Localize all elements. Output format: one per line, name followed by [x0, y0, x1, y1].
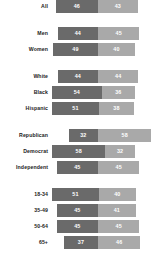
bar-row: 50-644545	[0, 220, 162, 233]
bar-value-left: 45	[74, 208, 80, 213]
bar-segment-right: 44	[98, 70, 138, 83]
bar-track: 3746	[52, 236, 162, 249]
bar-row: Women4940	[0, 43, 162, 56]
bar-segment-left: 45	[57, 204, 98, 217]
bar-group-gender: Men4445Women4940	[0, 27, 162, 56]
bar-value-right: 45	[116, 31, 122, 36]
bar-segment-left: 51	[52, 188, 99, 201]
category-label: All	[0, 4, 52, 9]
bar-value-right: 32	[117, 149, 123, 154]
stacked-bar: 4445	[58, 27, 140, 40]
bar-track: 5138	[52, 102, 162, 115]
stacked-bar: 4940	[53, 43, 135, 56]
bar-row: 35-494541	[0, 204, 162, 217]
category-label: Hispanic	[0, 106, 52, 111]
group-spacer	[0, 118, 162, 129]
bar-row: Republican3258	[0, 129, 162, 142]
bar-value-right: 45	[116, 224, 122, 229]
group-spacer	[0, 16, 162, 27]
bar-segment-right: 32	[105, 145, 134, 158]
bar-segment-left: 51	[52, 102, 99, 115]
bar-track: 4444	[52, 70, 162, 83]
bar-track: 4445	[52, 27, 162, 40]
bar-value-left: 51	[72, 106, 78, 111]
stacked-bar: 5832	[52, 145, 135, 158]
bar-row: Hispanic5138	[0, 102, 162, 115]
bar-row: Black5436	[0, 86, 162, 99]
bar-value-right: 58	[122, 133, 128, 138]
bar-segment-right: 40	[98, 43, 135, 56]
bar-track: 5140	[52, 188, 162, 201]
bar-segment-left: 45	[57, 220, 98, 233]
bar-track: 4545	[52, 161, 162, 174]
bar-segment-right: 45	[98, 161, 139, 174]
bar-segment-left: 58	[52, 145, 105, 158]
bar-segment-right: 58	[98, 129, 151, 142]
bar-value-right: 44	[115, 74, 121, 79]
bar-segment-right: 45	[98, 220, 139, 233]
category-label: Independent	[0, 165, 52, 170]
bar-group-race: White4444Black5436Hispanic5138	[0, 70, 162, 115]
bar-segment-right: 38	[99, 102, 134, 115]
category-label: 50-64	[0, 224, 52, 229]
category-label: Black	[0, 90, 52, 95]
bar-value-left: 58	[76, 149, 82, 154]
bar-segment-left: 46	[56, 0, 98, 13]
category-label: 65+	[0, 240, 52, 245]
bar-value-left: 44	[75, 31, 81, 36]
bar-track: 4541	[52, 204, 162, 217]
stacked-bar: 4541	[57, 204, 136, 217]
bar-segment-left: 49	[53, 43, 98, 56]
category-label: Men	[0, 31, 52, 36]
bar-track: 4545	[52, 220, 162, 233]
bar-segment-right: 40	[99, 188, 136, 201]
bar-track: 5832	[52, 145, 162, 158]
diverging-bar-chart: All4643Men4445Women4940White4444Black543…	[0, 0, 162, 256]
bar-track: 4643	[52, 0, 162, 13]
bar-segment-right: 45	[98, 27, 139, 40]
bar-value-left: 54	[74, 90, 80, 95]
stacked-bar: 4643	[56, 0, 138, 13]
bar-group-overall: All4643	[0, 0, 162, 13]
bar-value-left: 51	[72, 192, 78, 197]
bar-group-age: 18-34514035-49454150-64454565+3746	[0, 188, 162, 249]
stacked-bar: 4545	[57, 220, 140, 233]
bar-segment-left: 32	[69, 129, 98, 142]
category-label: Republican	[0, 133, 52, 138]
category-label: 35-49	[0, 208, 52, 213]
bar-segment-right: 46	[98, 236, 140, 249]
bar-value-left: 49	[72, 47, 78, 52]
category-label: Democrat	[0, 149, 52, 154]
group-spacer	[0, 59, 162, 70]
bar-value-right: 45	[116, 165, 122, 170]
stacked-bar: 3258	[69, 129, 152, 142]
category-label: White	[0, 74, 52, 79]
bar-value-right: 40	[114, 192, 120, 197]
category-label: Women	[0, 47, 52, 52]
bar-track: 5436	[52, 86, 162, 99]
bar-group-party: Republican3258Democrat5832Independent454…	[0, 129, 162, 174]
bar-track: 3258	[52, 129, 162, 142]
bar-segment-right: 41	[98, 204, 136, 217]
bar-segment-left: 37	[64, 236, 98, 249]
bar-track: 4940	[52, 43, 162, 56]
stacked-bar: 4444	[58, 70, 139, 83]
bar-value-right: 41	[114, 208, 120, 213]
bar-value-left: 32	[80, 133, 86, 138]
bar-row: Democrat5832	[0, 145, 162, 158]
bar-value-right: 40	[113, 47, 119, 52]
bar-row: Independent4545	[0, 161, 162, 174]
bar-segment-right: 43	[98, 0, 138, 13]
bar-value-left: 37	[78, 240, 84, 245]
bar-value-left: 45	[74, 165, 80, 170]
bar-value-right: 38	[113, 106, 119, 111]
bar-segment-left: 45	[57, 161, 98, 174]
bar-segment-left: 44	[58, 27, 98, 40]
bar-value-left: 46	[74, 4, 80, 9]
bar-value-right: 46	[116, 240, 122, 245]
bar-row: All4643	[0, 0, 162, 13]
bar-row: White4444	[0, 70, 162, 83]
bar-segment-right: 36	[102, 86, 135, 99]
bar-value-left: 45	[74, 224, 80, 229]
stacked-bar: 5140	[52, 188, 136, 201]
